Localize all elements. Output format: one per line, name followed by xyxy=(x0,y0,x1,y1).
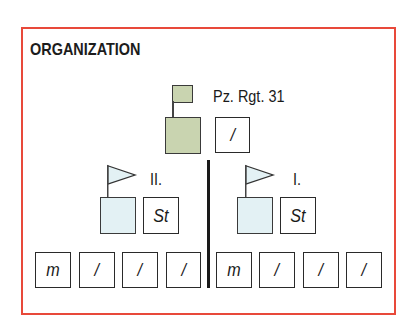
battalion-i-label: I. xyxy=(293,170,301,190)
company-label: m xyxy=(46,259,59,281)
company-box: / xyxy=(303,252,339,288)
company-box: / xyxy=(166,252,201,288)
diagram-title: ORGANIZATION xyxy=(30,40,141,60)
company-label: / xyxy=(275,259,279,281)
battalion-i-flag-icon xyxy=(245,165,275,199)
company-label: / xyxy=(319,259,323,281)
company-label: / xyxy=(138,259,142,281)
company-box: / xyxy=(122,252,158,288)
regiment-flag-icon xyxy=(172,85,193,103)
regiment-label: Pz. Rgt. 31 xyxy=(213,87,284,107)
regiment-staff-box: / xyxy=(215,117,250,153)
battalion-ii-staff-label: St xyxy=(153,205,168,227)
company-box: / xyxy=(346,252,382,288)
company-box: m xyxy=(216,252,252,288)
battalion-ii-hq-box xyxy=(100,197,136,234)
company-label: m xyxy=(227,259,240,281)
company-label: / xyxy=(362,259,366,281)
regiment-staff-label: / xyxy=(230,124,234,146)
regiment-hq-box xyxy=(165,117,201,154)
company-box: / xyxy=(259,252,295,288)
company-label: / xyxy=(95,259,99,281)
company-label: / xyxy=(181,259,185,281)
battalion-i-hq-box xyxy=(237,197,273,234)
battalion-ii-label: II. xyxy=(150,170,162,190)
company-box: / xyxy=(79,252,115,288)
battalion-ii-flag-icon xyxy=(107,165,137,199)
battalion-i-staff-label: St xyxy=(290,205,305,227)
battalion-ii-staff-box: St xyxy=(143,197,179,234)
battalion-i-staff-box: St xyxy=(280,197,316,234)
company-box: m xyxy=(35,252,71,288)
regiment-flag-pole xyxy=(172,101,174,118)
battalion-divider xyxy=(207,160,210,288)
